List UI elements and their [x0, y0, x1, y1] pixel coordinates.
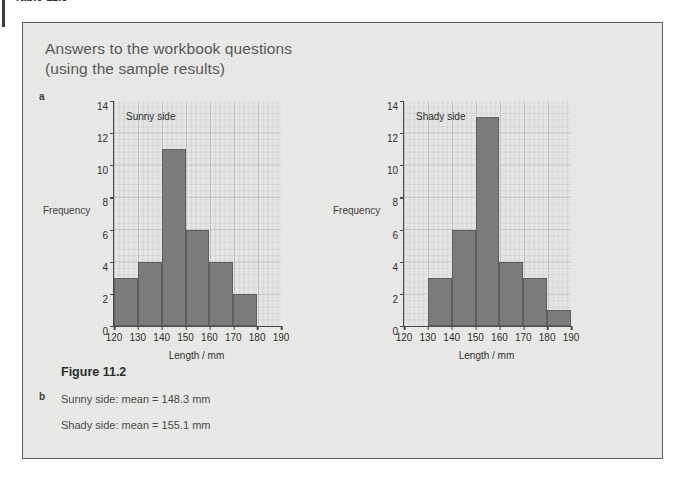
answer-shady-mean: Shady side: mean = 155.1 mm [61, 419, 211, 431]
chart-shady-bars [404, 101, 571, 326]
histogram-bar [547, 310, 571, 326]
x-axis-tick: 160 [201, 332, 218, 343]
histogram-bar [138, 262, 162, 326]
x-axis-tick: 170 [515, 332, 532, 343]
x-axis-tick: 180 [249, 332, 266, 343]
histogram-bar [452, 230, 476, 326]
histogram-bar [114, 278, 138, 326]
x-axis-tick: 120 [106, 332, 123, 343]
x-axis-tick: 150 [177, 332, 194, 343]
page-edge-rule [2, 0, 5, 27]
part-letter-a: a [39, 91, 45, 102]
x-axis-tick: 180 [539, 332, 556, 343]
answer-box-title-line-2: (using the sample results) [45, 59, 292, 79]
x-axis-tick: 190 [563, 332, 580, 343]
histogram-bar [233, 294, 257, 326]
histogram-bar [499, 262, 523, 326]
chart-shady-y-axis-label: Frequency [333, 205, 380, 216]
x-axis-tick: 130 [130, 332, 147, 343]
chart-sunny-y-axis-label: Frequency [43, 205, 90, 216]
histogram-bar [209, 262, 233, 326]
chart-sunny-x-axis-label: Length / mm [169, 350, 225, 361]
chart-sunny-bars [114, 101, 281, 326]
histogram-bar [186, 230, 210, 326]
x-axis-tick: 150 [467, 332, 484, 343]
x-axis-tick: 140 [153, 332, 170, 343]
chart-sunny-plot-area: Sunny side 02468101214120130140150160170… [113, 101, 281, 327]
histogram-bar [428, 278, 452, 326]
x-axis-tick: 170 [225, 332, 242, 343]
chart-shady-x-axis-label: Length / mm [459, 350, 515, 361]
running-head: Table 11.3 [14, 0, 68, 3]
x-axis-tick: 140 [443, 332, 460, 343]
x-axis-tick: 130 [420, 332, 437, 343]
chart-shady-plot-area: Shady side 02468101214120130140150160170… [403, 101, 571, 327]
answer-box-title: Answers to the workbook questions (using… [45, 39, 292, 79]
answer-box-title-line-1: Answers to the workbook questions [45, 39, 292, 59]
histogram-bar [523, 278, 547, 326]
x-axis-tick: 120 [396, 332, 413, 343]
histogram-bar [476, 117, 500, 326]
x-axis-tick: 160 [491, 332, 508, 343]
figure-caption: Figure 11.2 [61, 365, 126, 379]
part-letter-b: b [39, 391, 45, 402]
answer-box: Answers to the workbook questions (using… [22, 22, 663, 459]
histogram-bar [162, 149, 186, 326]
answer-sunny-mean: Sunny side: mean = 148.3 mm [61, 393, 211, 405]
x-axis-tick: 190 [273, 332, 290, 343]
